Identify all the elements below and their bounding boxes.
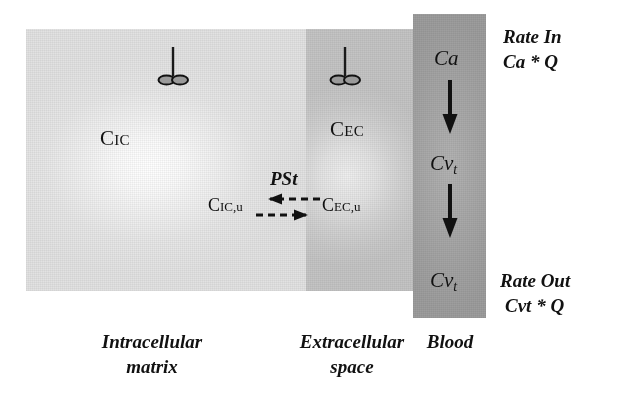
bound-receptor-icon-intracellular [156, 45, 190, 91]
bound-receptor-icon-svg [156, 45, 190, 91]
concentration-subscript: EC [344, 123, 364, 139]
venous-symbol: Cv [430, 268, 453, 292]
extracellular-concentration-label: CEC [330, 119, 364, 140]
concentration-subscript: IC [114, 132, 130, 148]
dashed-arrow-left-svg [252, 192, 324, 206]
concentration-subscript: EC,u [334, 199, 360, 214]
dashed-arrow-right-icon [252, 208, 324, 222]
venous-subscript: t [453, 279, 457, 294]
intracellular-concentration-label: CIC [100, 128, 130, 149]
arterial-concentration-label: Ca [434, 48, 459, 69]
venous-tissue-concentration-label-mid: Cvt [430, 153, 457, 177]
venous-tissue-concentration-label-out: Cvt [430, 270, 457, 294]
downward-flow-arrow-icon-lower [439, 182, 461, 244]
bound-receptor-icon-svg [328, 45, 362, 91]
diagram-canvas: CIC CEC CIC,u CEC,u PSt Ca Cvt [0, 0, 618, 395]
extracellular-unbound-label: CEC,u [322, 196, 360, 214]
concentration-symbol: C [330, 117, 344, 141]
caption-extracellular-space: Extracellular space [283, 330, 421, 379]
concentration-symbol: C [208, 195, 220, 215]
downward-flow-arrow-icon-upper [439, 78, 461, 140]
intracellular-unbound-label: CIC,u [208, 196, 243, 214]
rate-out-title: Rate Out [500, 268, 570, 294]
venous-symbol: Cv [430, 151, 453, 175]
concentration-subscript: IC,u [220, 199, 243, 214]
dashed-arrow-left-icon [252, 192, 324, 206]
permeability-surface-area-label: PSt [270, 169, 297, 188]
venous-subscript: t [453, 162, 457, 177]
downward-flow-arrow-svg [439, 182, 461, 244]
downward-flow-arrow-svg [439, 78, 461, 140]
dashed-arrow-right-svg [252, 208, 324, 222]
concentration-symbol: C [100, 126, 114, 150]
rate-in-title: Rate In [503, 24, 562, 50]
rate-in-equation: Ca * Q [503, 49, 558, 75]
rate-out-equation: Cvt * Q [505, 293, 564, 319]
caption-blood: Blood [413, 330, 487, 355]
bound-receptor-icon-extracellular [328, 45, 362, 91]
caption-intracellular-matrix: Intracellular matrix [62, 330, 242, 379]
